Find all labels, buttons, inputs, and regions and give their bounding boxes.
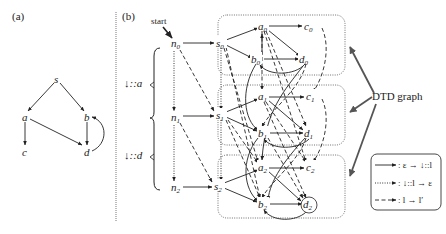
brace-tick-d <box>150 154 154 160</box>
edge-s-b <box>60 83 84 111</box>
panel-a: (a) s a b c d <box>12 10 104 158</box>
callout-arrow-1 <box>350 97 372 112</box>
edge-s-a <box>28 83 54 111</box>
legend-item-solid: : ε → ↓::l <box>398 160 433 170</box>
node-n2: n2 <box>171 181 181 195</box>
edge-n1-s2 <box>180 123 212 182</box>
start-label: start <box>151 16 167 26</box>
dtd-graph-copy-2 <box>218 155 345 218</box>
node-n1: n1 <box>171 111 180 125</box>
node-a: a <box>22 111 28 123</box>
edge-n0-s1 <box>180 50 214 111</box>
step-label-child-a: ↓::a <box>124 77 143 89</box>
node-c: c <box>22 146 27 158</box>
node-s: s <box>54 73 58 85</box>
node-b: b <box>84 111 90 123</box>
legend-item-dotted: : ↓::l → ε <box>398 178 432 188</box>
step-brace <box>150 48 160 190</box>
legend: : ε → ↓::l : ↓::l → ε : l → l′ <box>371 154 441 210</box>
panel-a-edges <box>25 83 104 151</box>
dtd-graph-copy-0 <box>218 15 345 75</box>
brace-tick-a <box>150 82 154 88</box>
panel-b-label: (b) <box>122 10 135 23</box>
edge-d-b <box>92 117 104 151</box>
edge-a-d <box>30 119 82 145</box>
step-label-child-d: ↓::d <box>124 149 143 161</box>
node-n0: n0 <box>171 37 181 51</box>
dtd-graph-callout: DTD graph <box>372 90 423 102</box>
panel-b: (b) start ↓::a ↓::d n0 n1 n2 <box>122 10 441 219</box>
callout-arrow-2 <box>350 104 376 176</box>
node-d: d <box>84 146 90 158</box>
callout-arrow-0 <box>350 47 374 93</box>
panel-a-label: (a) <box>12 10 25 23</box>
legend-item-dashed: : l → l′ <box>398 195 423 205</box>
diagram-canvas: (a) s a b c d (b) start ↓::a ↓::d n0 n1 … <box>0 0 446 234</box>
